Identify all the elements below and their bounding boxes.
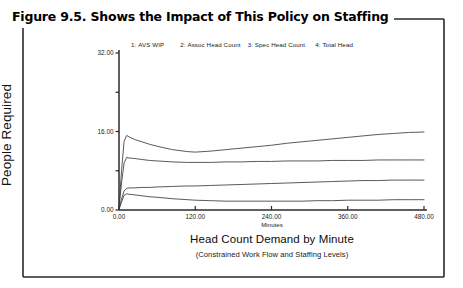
- x-axis-units-label: Minutes: [119, 221, 425, 228]
- chart-tick-labels: 0.0016.0032.000.00120.00240.00360.00480.…: [98, 49, 435, 220]
- x-axis-tick-label: 480.00: [414, 213, 434, 220]
- x-axis-tick-label: 360.00: [338, 213, 358, 220]
- series-line-spec-head-count: [119, 180, 424, 209]
- series-line-total-head: [119, 132, 424, 207]
- x-axis-tick-label: 240.00: [262, 213, 282, 220]
- chart-caption-sub: (Constrained Work Flow and Staffing Leve…: [119, 250, 425, 259]
- chart-axes: [116, 50, 428, 210]
- x-axis-tick-label: 120.00: [185, 213, 205, 220]
- y-axis-tick-label: 16.00: [98, 128, 114, 135]
- figure-container: Figure 9.5. Shows the Impact of This Pol…: [0, 0, 463, 288]
- y-axis-tick-label: 32.00: [98, 49, 114, 56]
- x-axis-tick-label: 0.00: [113, 213, 126, 220]
- chart-series-lines: [119, 132, 424, 210]
- chart-caption-main: Head Count Demand by Minute: [119, 233, 425, 245]
